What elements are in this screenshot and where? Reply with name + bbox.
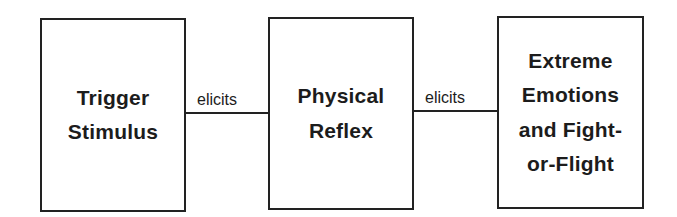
node-trigger-stimulus: Trigger Stimulus: [40, 18, 186, 212]
node-label-line: Extreme: [519, 44, 622, 79]
node-physical-reflex: Physical Reflex: [268, 17, 414, 210]
node-label-line: Trigger: [68, 81, 158, 116]
node-label-line: Reflex: [298, 114, 385, 149]
node-label: Extreme Emotions and Fight- or-Flight: [519, 44, 622, 182]
node-label: Trigger Stimulus: [68, 81, 158, 150]
node-label-line: and Fight-: [519, 113, 622, 148]
edge-label: elicits: [425, 89, 465, 107]
edge-label: elicits: [197, 91, 237, 109]
node-label-line: Physical: [298, 79, 385, 114]
arrow-trigger-to-reflex: [186, 112, 268, 114]
arrow-reflex-to-emotions: [414, 110, 497, 112]
node-label: Physical Reflex: [298, 79, 385, 148]
node-extreme-emotions: Extreme Emotions and Fight- or-Flight: [497, 16, 644, 209]
node-label-line: or-Flight: [519, 147, 622, 182]
node-label-line: Emotions: [519, 78, 622, 113]
node-label-line: Stimulus: [68, 115, 158, 150]
